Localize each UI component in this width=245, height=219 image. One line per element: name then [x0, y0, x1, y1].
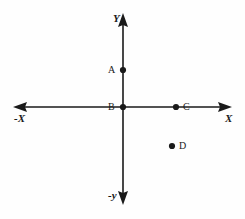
y-axis-negative-arrowhead — [118, 191, 128, 205]
x-axis-negative-arrowhead — [13, 102, 27, 112]
axes-svg — [0, 0, 245, 219]
point-marker-b — [120, 104, 126, 110]
point-marker-a — [120, 67, 126, 73]
point-marker-c — [173, 104, 179, 110]
point-label-c: C — [183, 102, 190, 112]
y-axis-negative-label: -y — [108, 190, 117, 201]
point-label-a: A — [108, 65, 115, 75]
coordinate-plane-figure: Y -X X -y A B C D — [0, 0, 245, 219]
y-axis-positive-label: Y — [113, 13, 120, 24]
x-axis-positive-label: X — [225, 113, 232, 124]
point-marker-d — [169, 143, 175, 149]
x-axis-negative-label: -X — [14, 113, 25, 124]
point-label-b: B — [108, 102, 115, 112]
x-axis-positive-arrowhead — [218, 102, 232, 112]
point-label-d: D — [179, 141, 186, 151]
